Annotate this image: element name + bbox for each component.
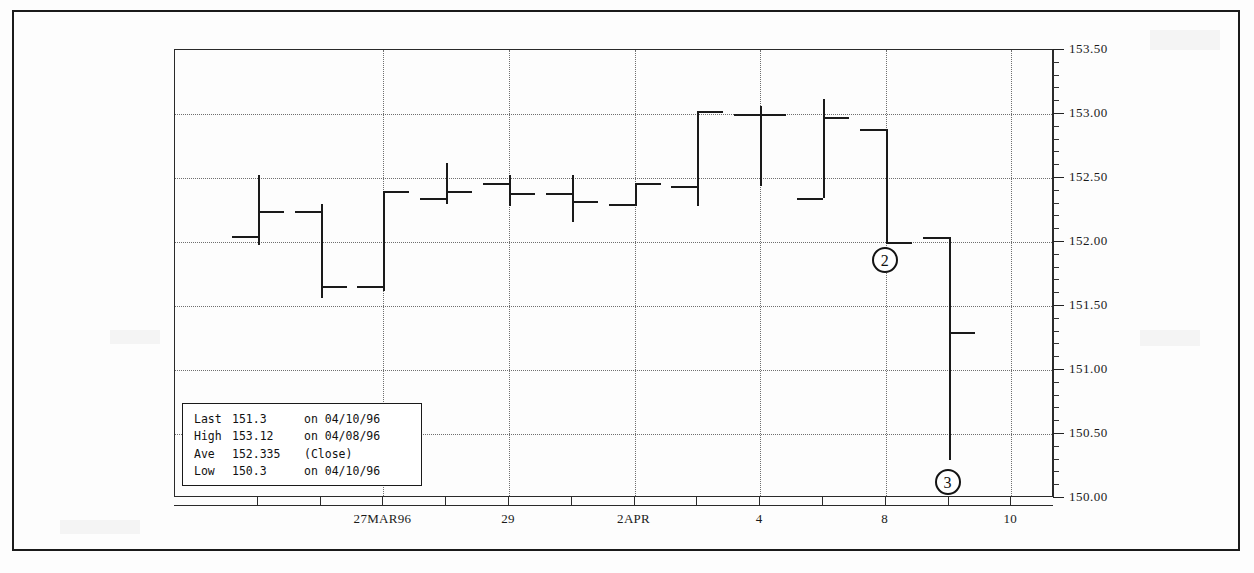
y-axis-tick-minor xyxy=(1053,203,1059,204)
y-axis-tick-label: 150.00 xyxy=(1069,489,1108,505)
y-axis-tick-minor xyxy=(1053,228,1059,229)
ohlc-open-tick xyxy=(609,204,635,206)
ohlc-high-low-line xyxy=(697,111,699,206)
ohlc-open-tick xyxy=(420,198,446,200)
table-row: Ave 152.335 (Close) xyxy=(194,446,380,463)
ohlc-open-tick xyxy=(797,198,823,200)
x-axis-tick-label: 2APR xyxy=(617,511,650,527)
x-axis-tick xyxy=(320,497,321,505)
x-axis-tick xyxy=(634,497,635,505)
gridline-horizontal xyxy=(175,306,1052,307)
y-axis-tick-label: 153.50 xyxy=(1069,41,1108,57)
y-axis-spine xyxy=(1053,49,1054,497)
y-axis-tick-label: 153.00 xyxy=(1069,105,1108,121)
x-axis-tick xyxy=(696,497,697,505)
high-value: 153.12 xyxy=(232,428,304,445)
y-axis-tick-minor xyxy=(1053,75,1059,76)
ohlc-close-tick xyxy=(383,191,409,193)
ohlc-high-low-line xyxy=(949,237,951,460)
ohlc-open-tick xyxy=(483,183,509,185)
gridline-horizontal xyxy=(175,242,1052,243)
ohlc-close-tick xyxy=(697,111,723,113)
gridline-vertical xyxy=(509,50,510,496)
ohlc-open-tick xyxy=(860,129,886,131)
ohlc-open-tick xyxy=(295,211,321,213)
ohlc-high-low-line xyxy=(572,175,574,221)
x-axis-tick xyxy=(759,497,760,505)
statistics-box: Last 151.3 on 04/10/96 High 153.12 on 04… xyxy=(182,403,422,486)
gridline-horizontal xyxy=(175,178,1052,179)
ohlc-close-tick xyxy=(760,114,786,116)
x-axis-tick-label: 8 xyxy=(881,511,888,527)
y-axis-tick-minor xyxy=(1053,459,1059,460)
ohlc-close-tick xyxy=(321,286,347,288)
y-axis-tick-minor xyxy=(1053,62,1059,63)
y-axis-tick-minor xyxy=(1053,151,1059,152)
low-note: on 04/10/96 xyxy=(304,463,380,480)
ohlc-high-low-line xyxy=(446,163,448,204)
y-axis-tick-minor xyxy=(1053,395,1059,396)
y-axis-tick-minor xyxy=(1053,446,1059,447)
y-axis-tick-label: 152.00 xyxy=(1069,233,1108,249)
y-axis-tick-minor xyxy=(1053,126,1059,127)
ohlc-close-tick xyxy=(823,117,849,119)
ohlc-open-tick xyxy=(923,237,949,239)
ohlc-high-low-line xyxy=(509,175,511,206)
x-axis-tick-label: 29 xyxy=(501,511,515,527)
x-axis-tick-label: 4 xyxy=(756,511,763,527)
y-axis-tick-label: 152.50 xyxy=(1069,169,1108,185)
x-axis-tick xyxy=(382,497,383,505)
y-axis-tick-minor xyxy=(1053,331,1059,332)
x-axis-spine xyxy=(174,505,1053,506)
x-axis-tick-label: 10 xyxy=(1003,511,1017,527)
gridline-vertical xyxy=(1011,50,1012,496)
page-canvas: 153.50153.00152.50152.00151.50151.00150.… xyxy=(0,0,1254,573)
y-axis-tick-minor xyxy=(1053,267,1059,268)
ohlc-high-low-line xyxy=(760,106,762,185)
gridline-horizontal xyxy=(175,114,1052,115)
ohlc-close-tick xyxy=(258,211,284,213)
y-axis-tick-minor xyxy=(1053,292,1059,293)
ohlc-close-tick xyxy=(949,332,975,334)
table-row: Low 150.3 on 04/10/96 xyxy=(194,463,380,480)
x-axis-tick xyxy=(445,497,446,505)
ohlc-high-low-line xyxy=(823,99,825,199)
gridline-horizontal xyxy=(175,370,1052,371)
y-axis-tick-minor xyxy=(1053,87,1059,88)
y-axis-tick-minor xyxy=(1053,407,1059,408)
annotation-2: 2 xyxy=(872,247,898,273)
y-axis-tick-major xyxy=(1053,433,1064,434)
ohlc-close-tick xyxy=(509,193,535,195)
y-axis-tick-label: 151.50 xyxy=(1069,297,1108,313)
x-axis-tick xyxy=(885,497,886,505)
x-axis-tick xyxy=(508,497,509,505)
y-axis-tick-minor xyxy=(1053,356,1059,357)
ohlc-close-tick xyxy=(635,183,661,185)
y-axis-tick-minor xyxy=(1053,190,1059,191)
ave-note: (Close) xyxy=(304,446,380,463)
x-axis-tick xyxy=(822,497,823,505)
low-value: 150.3 xyxy=(232,463,304,480)
ohlc-open-tick xyxy=(357,286,383,288)
ohlc-price-chart: 153.50153.00152.50152.00151.50151.00150.… xyxy=(0,0,1254,573)
statistics-table: Last 151.3 on 04/10/96 High 153.12 on 04… xyxy=(194,411,380,481)
x-axis-tick xyxy=(257,497,258,505)
annotation-3: 3 xyxy=(935,469,961,495)
y-axis-tick-minor xyxy=(1053,382,1059,383)
last-note: on 04/10/96 xyxy=(304,411,380,428)
ave-label: Ave xyxy=(194,446,232,463)
x-axis-tick-label: 27MAR96 xyxy=(354,511,412,527)
y-axis-tick-major xyxy=(1053,241,1064,242)
y-axis-tick-minor xyxy=(1053,139,1059,140)
ohlc-open-tick xyxy=(734,114,760,116)
y-axis-tick-minor xyxy=(1053,164,1059,165)
ohlc-close-tick xyxy=(886,242,912,244)
high-note: on 04/08/96 xyxy=(304,428,380,445)
x-axis-tick xyxy=(1010,497,1011,505)
y-axis-tick-major xyxy=(1053,305,1064,306)
y-axis-tick-minor xyxy=(1053,343,1059,344)
x-axis-tick xyxy=(948,497,949,505)
y-axis-tick-major xyxy=(1053,369,1064,370)
ohlc-high-low-line xyxy=(886,129,888,242)
ohlc-open-tick xyxy=(546,193,572,195)
